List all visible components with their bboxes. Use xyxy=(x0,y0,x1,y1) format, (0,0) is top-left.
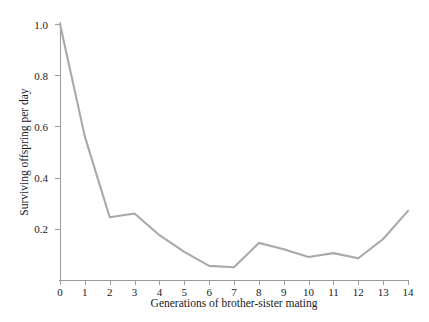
x-tick: 12 xyxy=(358,280,359,285)
plot-area: 0.20.40.60.81.0 01234567891011121314 xyxy=(60,24,408,280)
y-tick-label: 0.6 xyxy=(34,121,48,132)
x-tick: 0 xyxy=(60,280,61,285)
x-tick: 7 xyxy=(234,280,235,285)
x-tick: 2 xyxy=(110,280,111,285)
chart-figure: 0.20.40.60.81.0 01234567891011121314 Sur… xyxy=(0,0,429,322)
x-tick: 1 xyxy=(85,280,86,285)
x-tick: 3 xyxy=(135,280,136,285)
x-axis-title: Generations of brother-sister mating xyxy=(60,296,408,310)
x-tick: 6 xyxy=(209,280,210,285)
y-tick-label: 0.4 xyxy=(34,173,48,184)
x-tick: 9 xyxy=(284,280,285,285)
x-tick: 8 xyxy=(259,280,260,285)
x-tick: 4 xyxy=(159,280,160,285)
x-tick: 10 xyxy=(309,280,310,285)
data-series-line xyxy=(60,24,408,280)
y-tick-label: 0.8 xyxy=(34,70,48,81)
y-tick-label: 0.2 xyxy=(34,224,48,235)
x-tick: 5 xyxy=(184,280,185,285)
y-axis-title: Surviving offspring per day xyxy=(16,24,32,280)
x-tick: 14 xyxy=(408,280,409,285)
y-tick-label: 1.0 xyxy=(34,19,48,30)
x-tick: 13 xyxy=(383,280,384,285)
x-tick: 11 xyxy=(333,280,334,285)
